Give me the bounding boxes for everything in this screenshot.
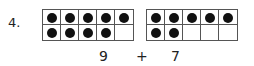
ten-frame-cell (201, 10, 219, 25)
addend-left: 9 (99, 48, 108, 64)
counter-dot-icon (83, 13, 93, 23)
ten-frame-cell (147, 10, 165, 25)
ten-frame-cell (79, 25, 97, 40)
ten-frame-cell (61, 25, 79, 40)
ten-frame-cell (79, 10, 97, 25)
ten-frame-cell (147, 25, 165, 40)
ten-frame-cell (115, 10, 133, 25)
counter-dot-icon (47, 28, 57, 38)
ten-frame-cell (183, 10, 201, 25)
ten-frame-cell (43, 10, 61, 25)
counter-dot-icon (223, 13, 233, 23)
addend-right: 7 (171, 48, 180, 64)
ten-frame-cell (43, 25, 61, 40)
ten-frame-cell (219, 25, 237, 40)
ten-frame-right (146, 9, 238, 41)
ten-frame-cell (183, 25, 201, 40)
ten-frame-cell (165, 25, 183, 40)
counter-dot-icon (65, 28, 75, 38)
ten-frame-cell (97, 25, 115, 40)
counter-dot-icon (169, 13, 179, 23)
counter-dot-icon (169, 28, 179, 38)
counter-dot-icon (101, 28, 111, 38)
ten-frame-left (42, 9, 134, 41)
ten-frame-cell (61, 10, 79, 25)
counter-dot-icon (101, 13, 111, 23)
ten-frame-cell (165, 10, 183, 25)
counter-dot-icon (119, 13, 129, 23)
counter-dot-icon (83, 28, 93, 38)
plus-operator: + (136, 48, 148, 64)
problem-number: 4. (8, 15, 20, 30)
counter-dot-icon (205, 13, 215, 23)
counter-dot-icon (151, 28, 161, 38)
counter-dot-icon (187, 13, 197, 23)
counter-dot-icon (151, 13, 161, 23)
ten-frame-cell (201, 25, 219, 40)
ten-frame-cell (97, 10, 115, 25)
counter-dot-icon (65, 13, 75, 23)
ten-frame-cell (219, 10, 237, 25)
ten-frame-cell (115, 25, 133, 40)
counter-dot-icon (47, 13, 57, 23)
